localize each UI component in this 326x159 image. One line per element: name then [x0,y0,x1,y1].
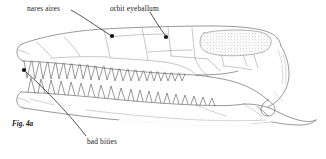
label-bad-bities: bad bities [87,138,117,145]
upper-tooth-row [24,61,185,81]
bities-leader-dot [22,68,26,72]
label-nares-aires: nares aires [27,5,60,12]
skull-illustration [0,0,326,159]
leader-lines [22,10,168,136]
mandible-shading [118,119,276,127]
occiput-shading [274,50,286,101]
skull-linework [17,26,316,127]
stippled-fenestra [200,30,271,56]
nares-leader-dot [110,34,114,38]
lower-tooth-row [28,78,215,106]
orbit-leader-dot [164,35,168,39]
mandible-outline [17,92,316,125]
label-orbit-eyeballum: orbit eyeballum [110,5,159,12]
figure-container: nares aires orbit eyeballum bad bities F… [0,0,326,159]
figure-caption: Fig. 4a [12,121,33,128]
